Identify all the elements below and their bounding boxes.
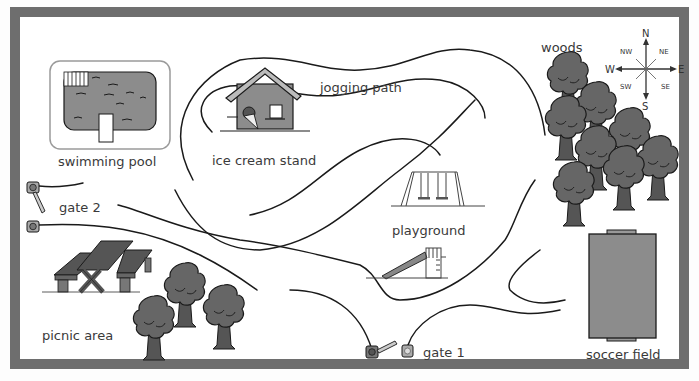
compass-s: S [642,101,648,112]
swimming-pool-label: swimming pool [58,154,156,169]
park-map: swimming pool ice cream stand jogging pa… [0,0,699,381]
compass-nw: NW [620,48,632,56]
compass-n: N [642,28,649,39]
ice-cream-stand-label: ice cream stand [212,153,316,168]
picnic-area-label: picnic area [42,328,113,343]
compass-se: SE [661,83,670,91]
swimming-pool[interactable] [50,61,170,149]
jogging-path-label: jogging path [319,80,402,95]
compass-sw: SW [620,83,631,91]
soccer-field[interactable] [589,230,656,341]
playground-label: playground [392,223,466,238]
gate-1-label: gate 1 [423,345,465,360]
gate-2-label: gate 2 [59,200,101,215]
soccer-field-label: soccer field [586,347,661,362]
compass-ne: NE [659,48,669,56]
compass-e: E [678,64,684,75]
compass-w: W [605,64,615,75]
